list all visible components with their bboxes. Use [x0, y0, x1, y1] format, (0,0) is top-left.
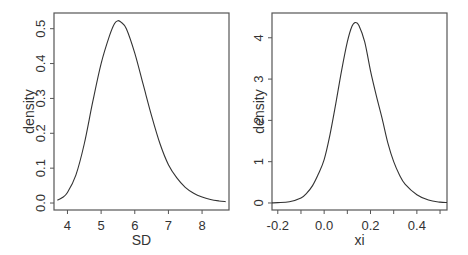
y-tick-label: 3: [251, 75, 266, 82]
y-tick-label: 0.5: [33, 20, 48, 38]
figure: 456780.00.10.20.30.40.5SDdensity -0.20.0…: [0, 0, 468, 255]
x-tick-label: 7: [165, 218, 172, 233]
x-tick-label: 0.2: [361, 218, 379, 233]
sd-density-panel: 456780.00.10.20.30.40.5SDdensity: [21, 13, 229, 248]
y-axis-label: density: [21, 89, 37, 133]
x-axis-label: xi: [354, 232, 364, 248]
x-tick-label: -0.2: [267, 218, 289, 233]
x-tick-label: 5: [97, 218, 104, 233]
x-axis-label: SD: [132, 232, 151, 248]
sd-density-curve: [57, 21, 225, 202]
x-tick-label: 4: [64, 218, 71, 233]
y-axis-label: density: [251, 89, 267, 133]
x-tick-label: 0.4: [408, 218, 426, 233]
xi-plot-frame: [272, 13, 447, 210]
x-tick-label: 6: [131, 218, 138, 233]
x-tick-label: 8: [198, 218, 205, 233]
xi-density-curve: [272, 22, 447, 202]
sd-plot-frame: [54, 13, 229, 210]
xi-density-panel: -0.20.00.20.401234xidensity: [251, 13, 447, 248]
y-tick-label: 0.4: [33, 55, 48, 73]
y-tick-label: 4: [251, 34, 266, 41]
y-tick-label: 1: [251, 158, 266, 165]
y-tick-label: 0: [251, 199, 266, 206]
y-tick-label: 0.1: [33, 159, 48, 177]
y-tick-label: 0.0: [33, 194, 48, 212]
x-tick-label: 0.0: [315, 218, 333, 233]
